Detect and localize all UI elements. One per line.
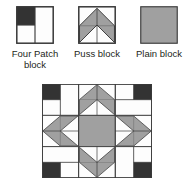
quilt-cell-bottom-left — [42, 147, 79, 178]
quilt-cell-top-left — [42, 84, 79, 115]
quilt-cell-top-center — [79, 84, 116, 115]
quilt-cell-center — [79, 115, 116, 146]
quilt-block-four-patch — [42, 147, 79, 178]
legend-label-plain: Plain block — [128, 48, 190, 59]
legend-label-puss: Puss block — [66, 48, 128, 59]
legend-item-four-patch: Four Patch block — [4, 6, 66, 70]
quilt-cell-middle-left — [42, 115, 79, 146]
quilt-layout-svg — [42, 84, 152, 178]
quilt-cell-middle-right — [115, 115, 152, 146]
plain-block-swatch — [140, 6, 178, 44]
puss-chevron-icon — [78, 6, 116, 44]
quilt-block-puss — [115, 115, 152, 146]
legend-item-plain: Plain block — [128, 6, 190, 59]
quilt-cell-bottom-center — [79, 147, 116, 178]
puss-block-swatch — [78, 6, 116, 44]
block-legend: Four Patch block Puss block — [0, 0, 194, 78]
quilt-block-plain — [79, 115, 116, 146]
quilt-cell-top-right — [115, 84, 152, 115]
quilt-block-puss — [42, 115, 79, 146]
plain-square-icon — [140, 6, 178, 44]
four-patch-icon — [16, 6, 54, 44]
quilt-diagram-figure: Four Patch block Puss block — [0, 0, 194, 180]
quilt-block-four-patch — [115, 147, 152, 178]
quilt-layout-diagram — [42, 84, 152, 178]
quilt-block-four-patch — [115, 84, 152, 115]
legend-label-four-patch: Four Patch block — [4, 48, 66, 70]
legend-item-puss: Puss block — [66, 6, 128, 59]
quilt-block-puss — [79, 147, 116, 178]
quilt-cell-bottom-right — [115, 147, 152, 178]
four-patch-block-swatch — [16, 6, 54, 44]
quilt-block-four-patch — [42, 84, 79, 115]
quilt-block-puss — [79, 84, 116, 115]
